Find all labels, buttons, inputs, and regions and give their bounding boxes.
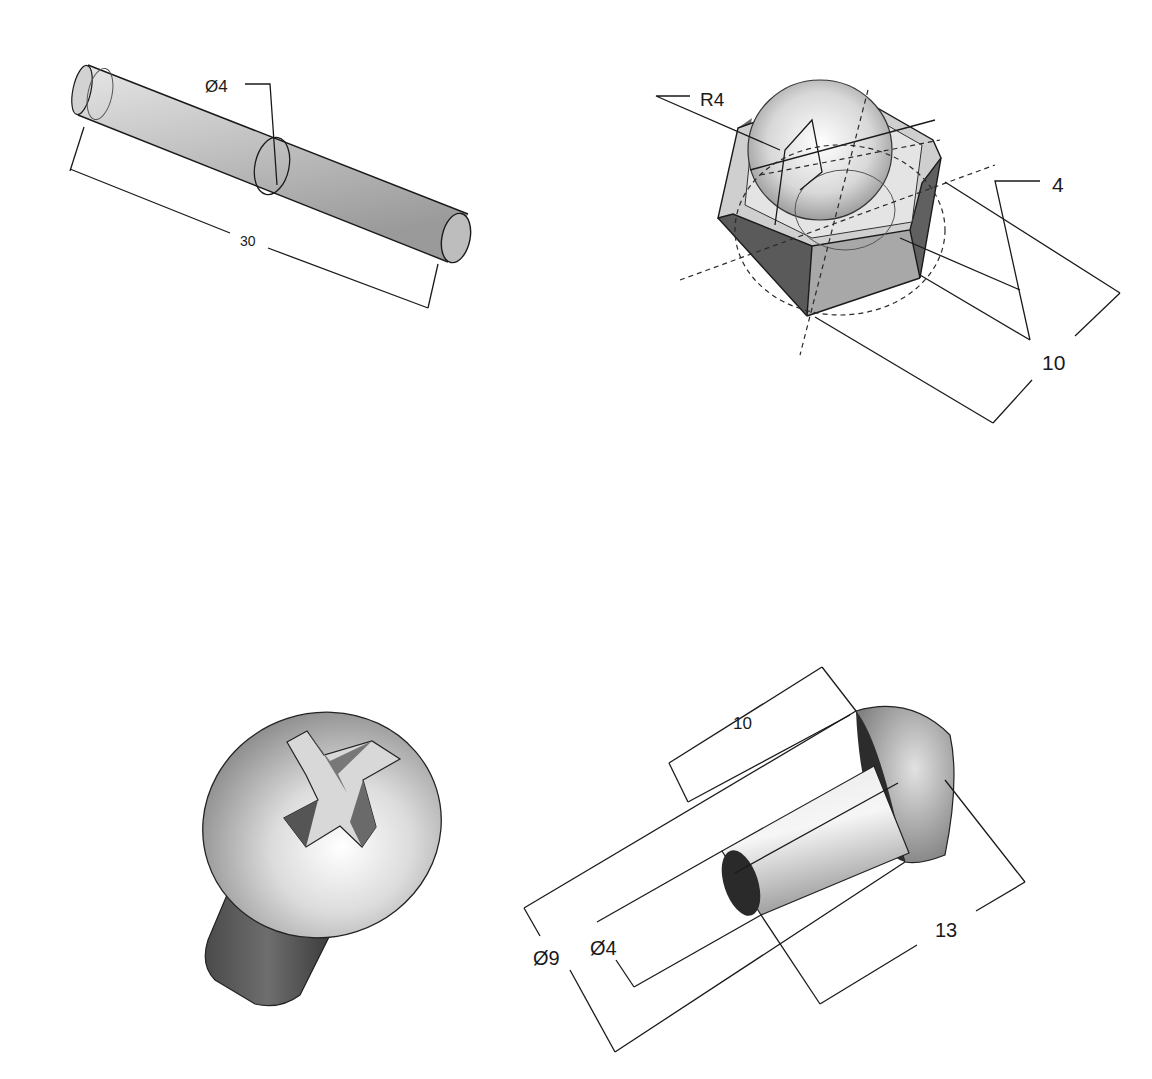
phillips-screw-part xyxy=(173,681,470,1005)
pin-diameter-label: Ø4 xyxy=(205,77,228,96)
technical-drawing-canvas: Ø4 30 xyxy=(0,0,1152,1079)
rivet-part: 10 Ø9 Ø4 13 xyxy=(524,667,1025,1052)
rivet-shank-length-dimension: 10 xyxy=(669,667,856,802)
pin-length-label: 30 xyxy=(240,233,256,249)
rivet-shank xyxy=(714,766,909,921)
rivet-total-length-label: 13 xyxy=(935,919,957,941)
rivet-head-diameter-dimension: Ø9 xyxy=(524,711,905,1052)
thickness-label: 4 xyxy=(1052,173,1064,196)
width-label: 10 xyxy=(1042,351,1065,374)
radius-label: R4 xyxy=(700,89,725,110)
cap-nut-part: R4 4 10 xyxy=(656,80,1120,423)
rivet-shank-diameter-label: Ø4 xyxy=(590,937,617,959)
rivet-shank-length-label: 10 xyxy=(733,714,752,733)
pin-body xyxy=(68,64,475,266)
rivet-head-diameter-label: Ø9 xyxy=(533,947,560,969)
pin-part: Ø4 30 xyxy=(68,64,475,308)
